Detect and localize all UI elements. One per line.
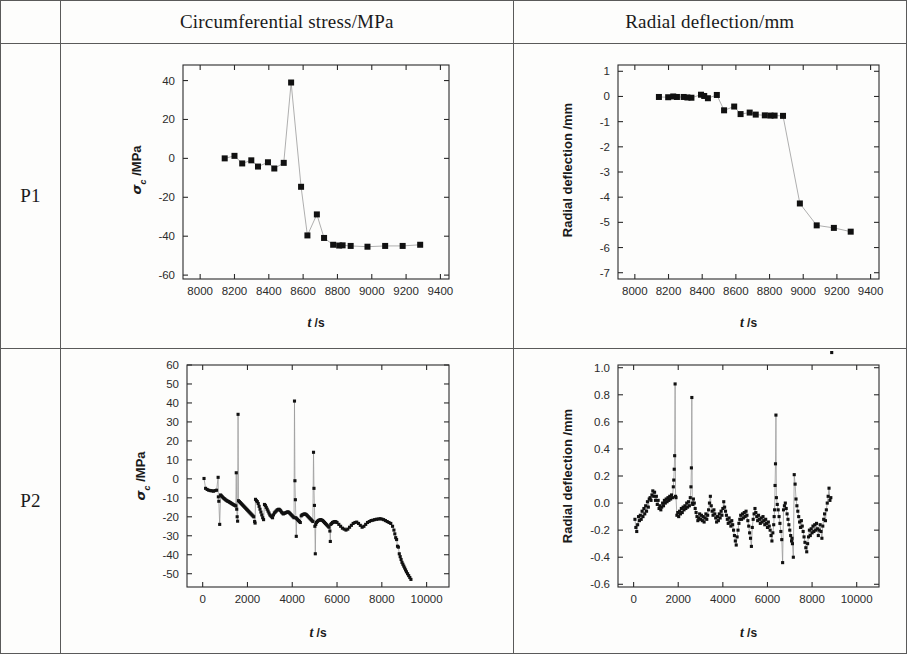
chart-p1-deflection: 80008200840086008800900092009400-7-6-5-4… — [514, 51, 906, 341]
data-point — [772, 113, 778, 119]
data-point — [824, 519, 827, 522]
data-point — [257, 505, 260, 508]
data-point — [769, 529, 772, 532]
data-point — [293, 400, 296, 403]
data-point — [732, 529, 735, 532]
data-point — [691, 396, 694, 399]
data-point — [399, 243, 405, 249]
data-point — [235, 471, 238, 474]
x-tick-label: 10000 — [410, 593, 442, 605]
data-point — [757, 514, 760, 517]
data-point — [823, 512, 826, 515]
data-point — [706, 514, 709, 517]
data-point — [734, 539, 737, 542]
data-point — [805, 550, 808, 553]
data-point — [796, 504, 799, 507]
data-point — [830, 351, 833, 354]
data-point — [218, 523, 221, 526]
y-tick-label: -7 — [600, 267, 610, 279]
data-point — [783, 504, 786, 507]
y-tick-label: -1 — [600, 116, 610, 128]
data-point — [649, 496, 652, 499]
data-point — [635, 526, 638, 529]
data-point — [716, 515, 719, 518]
data-point — [236, 413, 239, 416]
data-point — [781, 561, 784, 564]
y-tick-label: 1 — [604, 65, 610, 77]
data-point — [643, 507, 646, 510]
data-point — [255, 164, 261, 170]
data-point — [271, 166, 277, 172]
data-point — [721, 107, 727, 113]
data-point — [733, 534, 736, 537]
data-point — [707, 508, 710, 511]
data-point — [788, 529, 791, 532]
y-tick-label: 0 — [604, 90, 610, 102]
table-header-row: Circumferential stress/MPa Radial deflec… — [1, 1, 907, 44]
x-tick-label: 2000 — [234, 593, 260, 605]
data-point — [778, 515, 781, 518]
data-point — [773, 508, 776, 511]
data-point — [298, 184, 304, 190]
data-point — [750, 545, 753, 548]
y-tick-label: -5 — [600, 216, 610, 228]
data-point — [751, 526, 754, 529]
data-point — [234, 504, 237, 507]
y-axis-title: σc /MPa — [129, 145, 148, 195]
data-point — [777, 508, 780, 511]
data-point — [828, 487, 831, 490]
data-point — [705, 95, 711, 101]
y-tick-label: 0 — [172, 473, 178, 485]
data-point — [745, 510, 748, 513]
data-point — [697, 519, 700, 522]
y-tick-label: -3 — [600, 166, 610, 178]
data-point — [738, 522, 741, 525]
data-point — [314, 211, 320, 217]
data-point — [762, 515, 765, 518]
data-point — [217, 500, 220, 503]
data-point — [656, 94, 662, 100]
data-point — [670, 493, 673, 496]
data-point — [725, 514, 728, 517]
data-point — [692, 497, 695, 500]
data-point — [398, 555, 401, 558]
data-point — [719, 516, 722, 519]
x-tick-label: 9200 — [393, 285, 419, 297]
data-point — [673, 468, 676, 471]
data-point — [215, 489, 218, 492]
y-axis-title: Radial deflection /mm — [560, 103, 575, 237]
data-point — [786, 512, 789, 515]
data-point — [809, 534, 812, 537]
data-point — [221, 155, 227, 161]
data-point — [293, 479, 296, 482]
data-point — [671, 496, 674, 499]
x-tick-label: 8000 — [369, 593, 395, 605]
data-point — [262, 518, 265, 521]
data-point — [640, 518, 643, 521]
chart-p2-stress: 0200040006000800010000-50-40-30-20-10010… — [61, 351, 512, 651]
data-point — [754, 507, 757, 510]
data-point — [391, 525, 394, 528]
header-corner-cell — [1, 1, 61, 44]
data-point — [639, 514, 642, 517]
data-point — [728, 516, 731, 519]
data-point — [826, 502, 829, 505]
table-row-p2: P2 0200040006000800010000-50-40-30-20-10… — [1, 349, 907, 654]
data-point — [313, 504, 316, 507]
data-point — [395, 538, 398, 541]
data-point — [662, 504, 665, 507]
data-point — [312, 487, 315, 490]
y-tick-label: 0.4 — [594, 443, 611, 455]
y-tick-label: 10 — [166, 454, 179, 466]
series-line — [204, 401, 411, 579]
data-point — [787, 518, 790, 521]
x-tick-label: 10000 — [841, 593, 873, 605]
data-point — [713, 508, 716, 511]
data-point — [703, 520, 706, 523]
data-point — [815, 522, 818, 525]
data-point — [709, 495, 712, 498]
data-point — [235, 508, 238, 511]
data-point — [779, 522, 782, 525]
data-point — [724, 510, 727, 513]
data-point — [684, 504, 687, 507]
